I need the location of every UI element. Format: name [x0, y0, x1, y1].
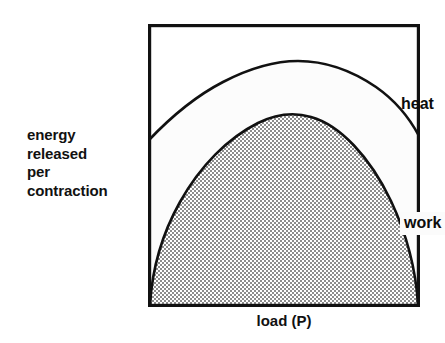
x-axis-label: load (P) [148, 312, 420, 329]
y-axis-label-line-3: per [27, 163, 143, 182]
heat-region-label: heat [401, 95, 434, 113]
y-axis-label-line-2: released [27, 145, 143, 164]
plot-area: heat work [148, 24, 420, 307]
y-axis-label-line-4: contraction [27, 182, 143, 201]
y-axis-label: energy released per contraction [27, 126, 143, 200]
plot-svg [148, 24, 420, 307]
y-axis-label-line-1: energy [27, 126, 143, 145]
work-region-label: work [400, 212, 445, 235]
